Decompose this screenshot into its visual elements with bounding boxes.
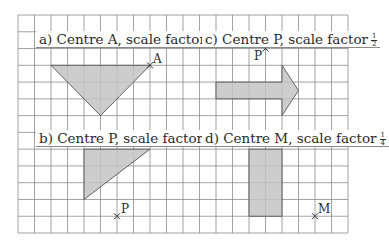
- label-text: d) Centre M, scale factor: [205, 130, 377, 146]
- shape-triangle-a: [51, 65, 150, 115]
- centre-label-b: P: [121, 203, 129, 215]
- fraction: 14: [380, 132, 386, 147]
- shape-arrow-c: [216, 65, 299, 115]
- fraction: 12: [371, 33, 377, 48]
- label-panel-b: b) Centre P, scale factor12: [36, 130, 216, 147]
- label-panel-d: d) Centre M, scale factor14: [202, 130, 389, 147]
- label-text: b) Centre P, scale factor: [39, 130, 203, 146]
- label-panel-c: c) Centre P, scale factor12: [202, 31, 380, 48]
- label-text: a) Centre A, scale factor: [39, 31, 206, 47]
- centre-label-c: P: [254, 50, 262, 62]
- label-text: c) Centre P, scale factor: [205, 31, 368, 47]
- shape-rectangle-d: [249, 149, 282, 216]
- label-panel-a: a) Centre A, scale factor13: [36, 31, 218, 48]
- centre-label-a: A: [153, 53, 162, 65]
- centre-label-d: M: [318, 203, 330, 215]
